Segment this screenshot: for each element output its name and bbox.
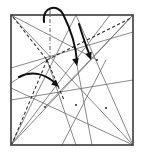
node-left	[46, 59, 48, 61]
node-center	[75, 104, 77, 106]
origami-crease-pattern-figure	[0, 0, 143, 158]
node-upper-right	[96, 59, 98, 61]
crease-pattern-canvas	[0, 0, 143, 158]
node-lower-left	[44, 106, 46, 108]
node-lower-right	[105, 107, 107, 109]
